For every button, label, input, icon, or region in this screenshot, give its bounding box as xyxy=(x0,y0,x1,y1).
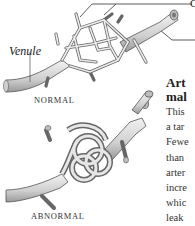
body-line: than xyxy=(166,150,195,165)
section-heading-line-2: mal xyxy=(166,90,195,104)
venule-label: Venule xyxy=(9,44,41,59)
body-line: a tar xyxy=(166,119,195,134)
abnormal-caption: ABNORMAL xyxy=(31,211,84,221)
side-text-column: Art mal This a tar Fewe than arter incre… xyxy=(166,76,195,226)
body-line: arter xyxy=(166,165,195,180)
section-heading-line-1: Art xyxy=(166,76,195,90)
abnormal-vessel-tangle-illustration xyxy=(6,100,149,209)
top-right-partial-label: C xyxy=(190,0,195,9)
normal-caption: NORMAL xyxy=(34,95,74,105)
body-line: leak xyxy=(166,210,195,225)
body-line: incre xyxy=(166,180,195,195)
body-line: whic xyxy=(166,195,195,210)
body-line: Fewe xyxy=(166,134,195,149)
vessel-cross-section-icon xyxy=(132,91,153,114)
body-line: This xyxy=(166,104,195,119)
